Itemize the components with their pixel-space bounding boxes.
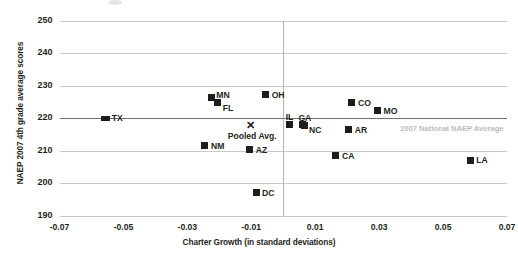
plot-area: 250240230220210200190-0.07-0.05-0.03-0.0… [0, 0, 518, 259]
data-label-oh: OH [272, 90, 285, 100]
data-label-mn: MN [216, 90, 229, 100]
data-marker-az [246, 146, 253, 153]
data-label-ca: CA [342, 151, 354, 161]
data-label-az: AZ [256, 145, 267, 155]
data-marker-pooled-avg: ✕ [246, 120, 255, 131]
data-label-il: IL [286, 112, 294, 122]
data-label-co: CO [358, 98, 371, 108]
gridline-y-190 [60, 216, 508, 217]
data-marker-tx [101, 116, 110, 121]
x-tick-label-0.07: 0.07 [477, 222, 518, 232]
x-tick-label--0.03: -0.03 [157, 222, 217, 232]
data-label-nm: NM [211, 141, 224, 151]
x-tick-label--0.01: -0.01 [221, 222, 281, 232]
x-tick-label--0.05: -0.05 [93, 222, 153, 232]
data-marker-mo [374, 107, 381, 114]
x-tick-label-0.03: 0.03 [349, 222, 409, 232]
data-marker-dc [253, 189, 260, 196]
x-tick-label-0.05: 0.05 [413, 222, 473, 232]
data-label-tx: TX [112, 113, 123, 123]
data-label-mo: MO [384, 106, 398, 116]
x-tick-label--0.07: -0.07 [30, 222, 90, 232]
data-label-nc: NC [309, 125, 321, 135]
data-label-la: LA [476, 155, 487, 165]
x-axis-title: Charter Growth (in standard deviations) [0, 237, 518, 247]
reference-line-zero-growth [283, 21, 284, 216]
data-marker-ar [345, 126, 352, 133]
naep-charter-growth-scatter-chart: 250240230220210200190-0.07-0.05-0.03-0.0… [0, 0, 518, 259]
data-marker-ca [332, 152, 339, 159]
data-marker-nc [301, 122, 308, 129]
data-marker-fl [214, 99, 221, 106]
national-average-annotation: 2007 National NAEP Average [400, 124, 504, 133]
data-marker-oh [262, 91, 269, 98]
x-tick-label-0.01: 0.01 [285, 222, 345, 232]
y-axis-title: NAEP 2007 4th grade average scores [15, 13, 25, 213]
data-marker-la [467, 157, 474, 164]
data-marker-co [348, 99, 355, 106]
data-label-pooledavg: Pooled Avg. [228, 131, 277, 141]
data-label-dc: DC [262, 188, 274, 198]
data-label-fl: FL [223, 103, 234, 113]
data-marker-nm [201, 142, 208, 149]
data-label-ar: AR [355, 125, 367, 135]
